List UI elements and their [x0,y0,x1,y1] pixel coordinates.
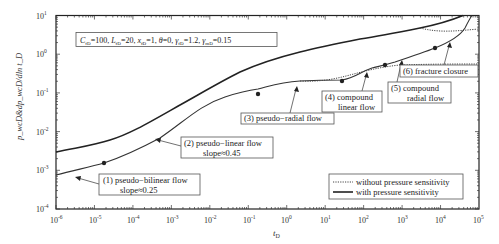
svg-text:radial flow: radial flow [407,93,445,103]
svg-text:(4) compound: (4) compound [325,92,374,102]
marker-pseudo-bilinear [102,161,106,165]
pressure-curve-without-sensitivity [420,28,479,31]
svg-text:(1) pseudo−bilinear flow: (1) pseudo−bilinear flow [103,175,188,185]
legend-with-sensitivity: with pressure sensitivity [356,187,439,197]
svg-text:101: 101 [320,214,331,225]
marker-compound-radial [383,63,387,67]
svg-text:(6) fracture closure: (6) fracture closure [403,66,468,76]
legend: without pressure sensitivity with pressu… [329,174,463,199]
svg-text:100: 100 [281,214,292,225]
parameters-box: CfD=100, LfD=20, xfD=1, θ=0, γfD=1.2, γm… [76,33,277,47]
svg-text:10-6: 10-6 [50,214,63,225]
annotation-1: (1) pseudo−bilinear flow slope≈0.25 [75,174,200,195]
marker-compound-linear [340,79,344,83]
svg-text:10-3: 10-3 [36,164,49,175]
svg-text:10-3: 10-3 [166,214,179,225]
svg-text:(2) pseudo−linear flow: (2) pseudo−linear flow [184,138,263,148]
x-tick-labels: 10-6 10-5 10-4 10-3 10-2 10-1 100 101 10… [50,214,484,225]
marker-fracture-closure [433,46,437,50]
svg-text:linear flow: linear flow [338,102,376,112]
svg-text:10-4: 10-4 [127,214,140,225]
svg-text:(5) compound: (5) compound [391,83,440,93]
svg-text:(3) pseudo−radial flow: (3) pseudo−radial flow [244,113,323,123]
marker-pseudo-radial [256,92,260,96]
svg-text:10-2: 10-2 [36,126,49,137]
x-axis-label: tD [273,228,281,239]
chart-canvas: 101 100 10-1 10-2 10-3 10-4 10-6 10-5 10… [0,0,499,244]
svg-text:104: 104 [435,214,446,225]
svg-text:102: 102 [358,214,369,225]
annotation-4: (4) compound linear flow [322,72,382,112]
annotation-6: (6) fracture closure [400,42,478,77]
svg-text:105: 105 [473,214,484,225]
svg-text:10-2: 10-2 [204,214,217,225]
svg-text:10-5: 10-5 [89,214,102,225]
svg-text:slope≈0.25: slope≈0.25 [120,185,157,195]
annotation-2: (2) pseudo−linear flow slope≈0.45 [155,137,273,158]
svg-text:10-1: 10-1 [36,87,49,98]
annotation-3: (3) pseudo−radial flow [241,86,334,124]
svg-text:10-4: 10-4 [36,203,49,214]
y-tick-labels: 101 100 10-1 10-2 10-3 10-4 [36,10,49,214]
svg-text:slope≈0.45: slope≈0.45 [203,148,240,158]
svg-text:100: 100 [36,48,47,59]
svg-text:101: 101 [36,10,47,21]
svg-text:103: 103 [397,214,408,225]
y-axis-label: p_wcD&dp_wcD/dln t_D [14,52,24,141]
svg-text:10-1: 10-1 [243,214,256,225]
legend-without-sensitivity: without pressure sensitivity [356,177,450,187]
